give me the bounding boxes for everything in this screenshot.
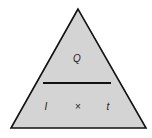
bottom-left-label-i: I bbox=[45, 101, 48, 112]
multiply-operator: × bbox=[75, 101, 81, 112]
top-label-q: Q bbox=[73, 53, 81, 64]
formula-triangle: Q I × t bbox=[0, 0, 152, 138]
